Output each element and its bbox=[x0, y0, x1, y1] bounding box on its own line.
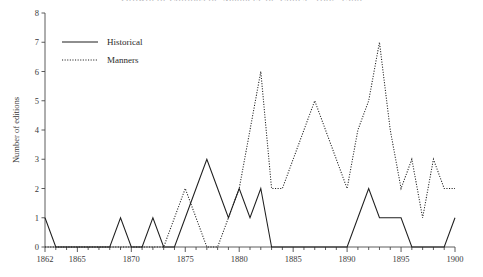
legend-label-manners: Manners bbox=[107, 55, 139, 65]
axes bbox=[45, 13, 455, 247]
x-tick-label: 1890 bbox=[339, 254, 356, 264]
y-tick-label: 1 bbox=[35, 213, 39, 223]
x-axis-tick-labels: 186218651870187518801885189018951900 bbox=[37, 254, 464, 264]
x-tick-label: 1862 bbox=[37, 254, 54, 264]
x-tick-label: 1875 bbox=[177, 254, 194, 264]
y-tick-label: 6 bbox=[35, 67, 39, 77]
y-tick-label: 8 bbox=[35, 8, 39, 18]
x-tick-label: 1885 bbox=[285, 254, 302, 264]
y-axis-title: Number of editions bbox=[11, 97, 21, 163]
y-tick-label: 7 bbox=[35, 37, 39, 47]
tick-marks bbox=[42, 13, 456, 252]
y-tick-label: 4 bbox=[35, 125, 40, 135]
chart-legend: HistoricalManners bbox=[62, 37, 143, 65]
data-series bbox=[45, 42, 455, 247]
series-line-historical bbox=[45, 159, 455, 247]
chart-figure: Growth of Editions of 'Manners' or 'Ethi… bbox=[0, 0, 483, 277]
y-axis-tick-labels: 012345678 bbox=[35, 8, 40, 252]
x-tick-label: 1870 bbox=[123, 254, 140, 264]
y-tick-label: 2 bbox=[35, 184, 39, 194]
y-tick-label: 5 bbox=[35, 96, 39, 106]
chart-plot-area: 012345678 186218651870187518801885189018… bbox=[0, 0, 483, 277]
x-tick-label: 1880 bbox=[231, 254, 248, 264]
x-tick-label: 1865 bbox=[69, 254, 86, 264]
x-tick-label: 1900 bbox=[447, 254, 464, 264]
y-tick-label: 0 bbox=[35, 242, 39, 252]
y-axis-title-text: Number of editions bbox=[11, 97, 21, 163]
x-tick-label: 1895 bbox=[393, 254, 410, 264]
legend-label-historical: Historical bbox=[107, 37, 143, 47]
y-tick-label: 3 bbox=[35, 154, 39, 164]
